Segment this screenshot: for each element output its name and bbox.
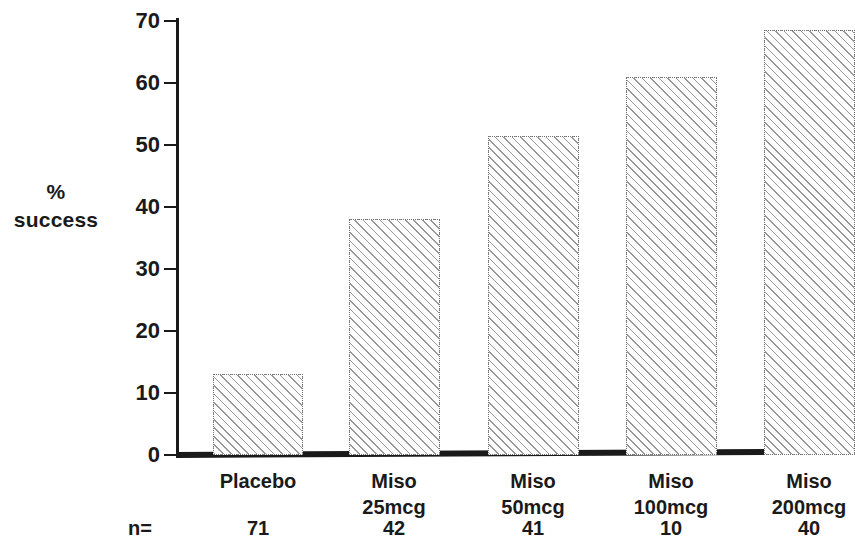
x-category-miso-100mcg-line1: Miso (611, 468, 731, 494)
bar-miso-25mcg (349, 219, 440, 455)
x-category-miso-25mcg-line1: Miso (334, 468, 454, 494)
bar-miso-50mcg (488, 136, 579, 455)
x-category-miso-25mcg: Miso 25mcg (334, 468, 454, 520)
x-category-miso-50mcg-line1: Miso (473, 468, 593, 494)
sample-size-miso-50mcg: 41 (473, 516, 593, 540)
x-category-miso-200mcg: Miso 200mcg (749, 468, 855, 520)
bar-chart: % success 70 60 50 40 30 20 10 0 Placebo… (0, 0, 855, 547)
x-category-miso-100mcg: Miso 100mcg (611, 468, 731, 520)
x-category-placebo: Placebo (198, 468, 318, 494)
sample-size-miso-25mcg: 42 (334, 516, 454, 540)
x-category-miso-200mcg-line1: Miso (749, 468, 855, 494)
x-category-miso-50mcg: Miso 50mcg (473, 468, 593, 520)
bar-miso-200mcg (764, 30, 855, 455)
sample-size-label: n= (86, 516, 152, 540)
bar-miso-100mcg (626, 77, 717, 455)
bar-placebo (213, 374, 303, 455)
sample-size-miso-100mcg: 10 (611, 516, 731, 540)
bars-layer (0, 0, 855, 547)
sample-size-placebo: 71 (198, 516, 318, 540)
sample-size-miso-200mcg: 40 (749, 516, 855, 540)
x-category-placebo-line1: Placebo (198, 468, 318, 494)
